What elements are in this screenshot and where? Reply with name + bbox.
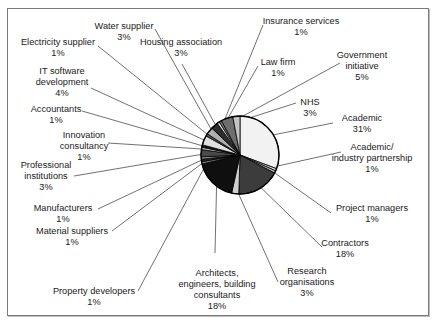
label-research-organisations: Researchorganisations3% xyxy=(280,266,335,299)
label-contractors: Contractors18% xyxy=(321,238,369,260)
label-it-software-development: IT softwaredevelopment4% xyxy=(36,66,89,99)
label-electricity-supplier: Electricity supplier1% xyxy=(21,37,95,59)
leader-line xyxy=(91,88,209,142)
leader-line xyxy=(222,25,263,127)
leader-line xyxy=(257,184,322,247)
label-architects: Architects,engineers, buildingconsultant… xyxy=(178,268,255,312)
label-professional-institutions: Professionalinstitutions3% xyxy=(21,160,72,193)
label-project-managers: Project managers1% xyxy=(336,203,408,225)
leader-line xyxy=(98,46,212,138)
leader-line xyxy=(267,123,333,136)
label-housing-association: Housing association3% xyxy=(140,37,222,59)
leader-line xyxy=(270,169,331,213)
leader-line xyxy=(98,158,207,209)
label-material-suppliers: Material suppliers1% xyxy=(36,226,108,248)
label-academic-industry-partnership: Academic/industry partnership1% xyxy=(332,142,413,175)
pie-slices xyxy=(201,116,279,194)
label-insurance-services: Insurance services1% xyxy=(263,16,340,38)
leader-line xyxy=(182,64,218,130)
label-government-initiative: Governmentinitiative5% xyxy=(337,50,388,83)
leader-line xyxy=(108,143,207,149)
label-law-firm: Law firm1% xyxy=(261,57,296,79)
leader-line xyxy=(215,179,217,253)
label-innovation-consultancy: Innovationconsultancy1% xyxy=(60,130,109,163)
label-nhs: NHS3% xyxy=(300,97,319,119)
label-accountants: Accountants1% xyxy=(31,104,82,126)
leader-line xyxy=(271,152,341,168)
label-manufacturers: Manufacturers1% xyxy=(34,203,93,225)
label-property-developers: Property developers1% xyxy=(53,286,135,308)
label-academic: Academic31% xyxy=(342,113,382,135)
